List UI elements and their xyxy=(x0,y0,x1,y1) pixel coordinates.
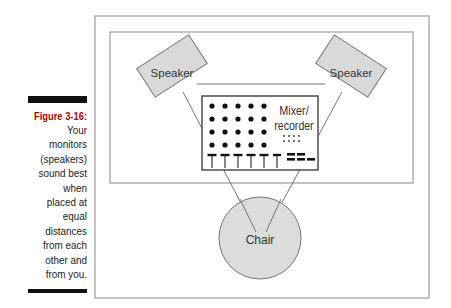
right-speaker xyxy=(316,35,387,97)
mixer-label-line2: recorder xyxy=(274,119,314,132)
left-speaker-box xyxy=(137,35,208,97)
chair-label: Chair xyxy=(246,233,275,247)
left-speaker-label: Speaker xyxy=(151,67,194,79)
mixer-label-line1: Mixer/ xyxy=(279,104,309,117)
right-speaker-label: Speaker xyxy=(330,67,373,79)
left-speaker xyxy=(137,35,208,97)
mixer-recorder: Mixer/ recorder xyxy=(202,96,318,170)
speaker-placement-diagram: Mixer/ recorder Speaker Speaker Chair xyxy=(0,0,451,308)
right-speaker-box xyxy=(316,35,387,97)
